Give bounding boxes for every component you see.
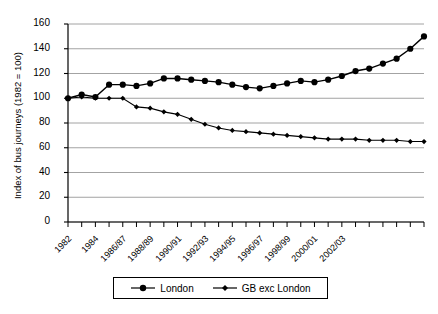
marker-london-3 bbox=[106, 82, 112, 88]
marker-london-14 bbox=[257, 85, 263, 91]
marker-gb-exc-london-26 bbox=[421, 139, 426, 144]
marker-london-24 bbox=[394, 56, 400, 62]
marker-london-7 bbox=[161, 75, 167, 81]
y-tick-label-160: 160 bbox=[0, 18, 58, 28]
marker-gb-exc-london-16 bbox=[284, 133, 289, 138]
marker-gb-exc-london-14 bbox=[257, 130, 262, 135]
marker-london-23 bbox=[380, 61, 386, 67]
marker-london-4 bbox=[120, 82, 126, 88]
marker-gb-exc-london-21 bbox=[353, 136, 358, 141]
marker-gb-exc-london-7 bbox=[161, 109, 166, 114]
y-tick-label-80: 80 bbox=[0, 117, 58, 127]
marker-london-15 bbox=[270, 83, 276, 89]
legend-diamond-marker-icon bbox=[212, 282, 238, 294]
marker-gb-exc-london-3 bbox=[106, 96, 111, 101]
y-tick-label-40: 40 bbox=[0, 167, 58, 177]
marker-london-21 bbox=[352, 68, 358, 74]
marker-london-18 bbox=[311, 79, 317, 85]
marker-london-6 bbox=[147, 80, 153, 86]
marker-london-11 bbox=[216, 79, 222, 85]
marker-gb-exc-london-23 bbox=[380, 138, 385, 143]
marker-gb-exc-london-11 bbox=[216, 125, 221, 130]
marker-gb-exc-london-13 bbox=[243, 129, 248, 134]
marker-london-13 bbox=[243, 84, 249, 90]
marker-london-17 bbox=[298, 78, 304, 84]
marker-london-2 bbox=[92, 94, 98, 100]
marker-gb-exc-london-12 bbox=[230, 128, 235, 133]
legend-label: GB exc London bbox=[242, 283, 311, 294]
marker-london-19 bbox=[325, 77, 331, 83]
marker-gb-exc-london-10 bbox=[202, 122, 207, 127]
marker-london-20 bbox=[339, 73, 345, 79]
marker-gb-exc-london-17 bbox=[298, 134, 303, 139]
y-tick-label-20: 20 bbox=[0, 191, 58, 201]
marker-london-12 bbox=[229, 82, 235, 88]
marker-gb-exc-london-9 bbox=[189, 117, 194, 122]
y-tick-label-140: 140 bbox=[0, 43, 58, 53]
marker-gb-exc-london-4 bbox=[120, 96, 125, 101]
marker-gb-exc-london-22 bbox=[367, 138, 372, 143]
y-tick-label-0: 0 bbox=[0, 216, 58, 226]
marker-gb-exc-london-25 bbox=[408, 139, 413, 144]
chart-figure: Index of bus journeys (1982 = 100) 02040… bbox=[0, 0, 438, 314]
marker-london-8 bbox=[174, 75, 180, 81]
marker-gb-exc-london-18 bbox=[312, 135, 317, 140]
marker-london-16 bbox=[284, 80, 290, 86]
marker-london-10 bbox=[202, 78, 208, 84]
marker-gb-exc-london-19 bbox=[326, 136, 331, 141]
marker-london-0 bbox=[65, 95, 71, 101]
y-tick-label-120: 120 bbox=[0, 68, 58, 78]
marker-gb-exc-london-15 bbox=[271, 132, 276, 137]
legend-circle-marker-icon bbox=[130, 282, 156, 294]
marker-gb-exc-london-24 bbox=[394, 138, 399, 143]
marker-london-25 bbox=[407, 46, 413, 52]
chart-legend: LondonGB exc London bbox=[113, 277, 328, 299]
legend-item-london[interactable]: London bbox=[130, 282, 193, 294]
marker-london-26 bbox=[421, 33, 427, 39]
y-tick-label-100: 100 bbox=[0, 92, 58, 102]
legend-item-gb-exc-london[interactable]: GB exc London bbox=[212, 282, 311, 294]
marker-london-9 bbox=[188, 77, 194, 83]
marker-london-1 bbox=[79, 91, 85, 97]
marker-gb-exc-london-5 bbox=[134, 104, 139, 109]
legend-label: London bbox=[160, 283, 193, 294]
marker-london-22 bbox=[366, 65, 372, 71]
marker-gb-exc-london-8 bbox=[175, 112, 180, 117]
marker-london-5 bbox=[133, 83, 139, 89]
series-line-gb-exc-london bbox=[68, 97, 424, 142]
y-tick-label-60: 60 bbox=[0, 142, 58, 152]
marker-gb-exc-london-20 bbox=[339, 136, 344, 141]
marker-gb-exc-london-6 bbox=[148, 106, 153, 111]
